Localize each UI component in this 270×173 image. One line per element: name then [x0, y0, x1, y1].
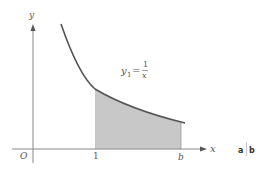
tick-label-b: b [178, 152, 184, 162]
panel-label-a: a [238, 146, 243, 155]
x-axis-label: x [210, 143, 216, 154]
curve-label-sub: 1 [127, 71, 131, 79]
y-axis-arrow-icon [31, 24, 36, 31]
diagram: y x O 1 b y 1 = 1 x a b [0, 0, 270, 173]
curve-label-y: y [120, 65, 127, 76]
origin-label: O [20, 151, 28, 161]
curve-label-numerator: 1 [143, 60, 148, 69]
tick-label-one: 1 [93, 151, 99, 161]
curve-label-denominator: x [142, 71, 147, 80]
x-axis-arrow-icon [200, 147, 207, 152]
y-axis-label: y [28, 10, 35, 20]
panel-label-b: b [249, 146, 255, 155]
diagram-svg: y x O 1 b y 1 = 1 x a b [0, 0, 270, 173]
curve-label-eq: = [132, 65, 140, 76]
